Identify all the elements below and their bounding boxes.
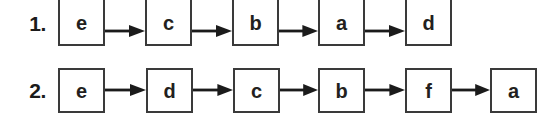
node-box: e (58, 68, 105, 113)
sequence-row-1: 1. e c b a d (0, 0, 553, 46)
node-label: b (249, 13, 261, 33)
linked-list-figure: 1. e c b a d (0, 0, 553, 121)
node-label: d (163, 81, 175, 101)
node-box: c (233, 68, 280, 113)
node-box: c (145, 0, 192, 46)
row-index-label-2: 2. (12, 79, 46, 103)
node-label: a (508, 81, 519, 101)
arrow-right-icon (192, 24, 232, 38)
arrow-right-icon (280, 83, 318, 97)
arrow-right-icon (105, 24, 145, 38)
node-label: e (76, 13, 87, 33)
node-label: f (425, 81, 432, 101)
node-label: b (335, 81, 347, 101)
node-box: a (490, 68, 537, 113)
arrow-right-icon (452, 83, 490, 97)
node-label: c (251, 81, 262, 101)
node-label: c (163, 13, 174, 33)
arrow-right-icon (279, 24, 318, 38)
sequence-row-2: 2. e d c b f a (0, 68, 553, 113)
node-box: b (232, 0, 279, 46)
arrow-right-icon (193, 83, 233, 97)
node-box: b (318, 68, 365, 113)
node-label: a (336, 13, 347, 33)
arrow-right-icon (365, 24, 405, 38)
node-box: d (146, 68, 193, 113)
node-box: f (405, 68, 452, 113)
node-label: e (76, 81, 87, 101)
node-label: d (422, 13, 434, 33)
arrow-right-icon (365, 83, 405, 97)
arrow-right-icon (105, 83, 146, 97)
node-box: a (318, 0, 365, 46)
node-box: e (58, 0, 105, 46)
row-index-label-1: 1. (12, 12, 46, 36)
node-box: d (405, 0, 452, 46)
